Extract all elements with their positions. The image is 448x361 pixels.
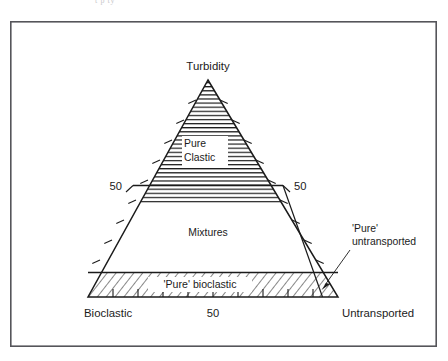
region-label-pure-bioclastic: 'Pure' bioclastic [148,277,252,292]
region-label-pure-clastic-line1: Pure [184,138,206,149]
region-label-pure-clastic-line2: Clastic [184,152,215,163]
vertex-label-turbidity: Turbidity [186,60,230,72]
annotation-pure-untransported-line1: 'Pure' [352,223,378,234]
tick-label-left-50: 50 [110,180,122,192]
annotation-pure-untransported-line2: untransported [352,236,416,247]
region-label-pure-bioclastic-text: 'Pure' bioclastic [164,278,238,290]
ternary-diagram-figure: t p ty [0,0,448,361]
region-label-pure-clastic: Pure Clastic [182,136,228,166]
tick-label-right-50: 50 [294,180,306,192]
vertex-label-bioclastic: Bioclastic [84,307,132,319]
ternary-plot-svg: Turbidity Bioclastic Untransported 50 50… [0,0,448,361]
vertex-label-untransported: Untransported [342,307,414,319]
tick-label-bottom-50: 50 [207,307,219,319]
region-label-mixtures: Mixtures [188,227,227,238]
